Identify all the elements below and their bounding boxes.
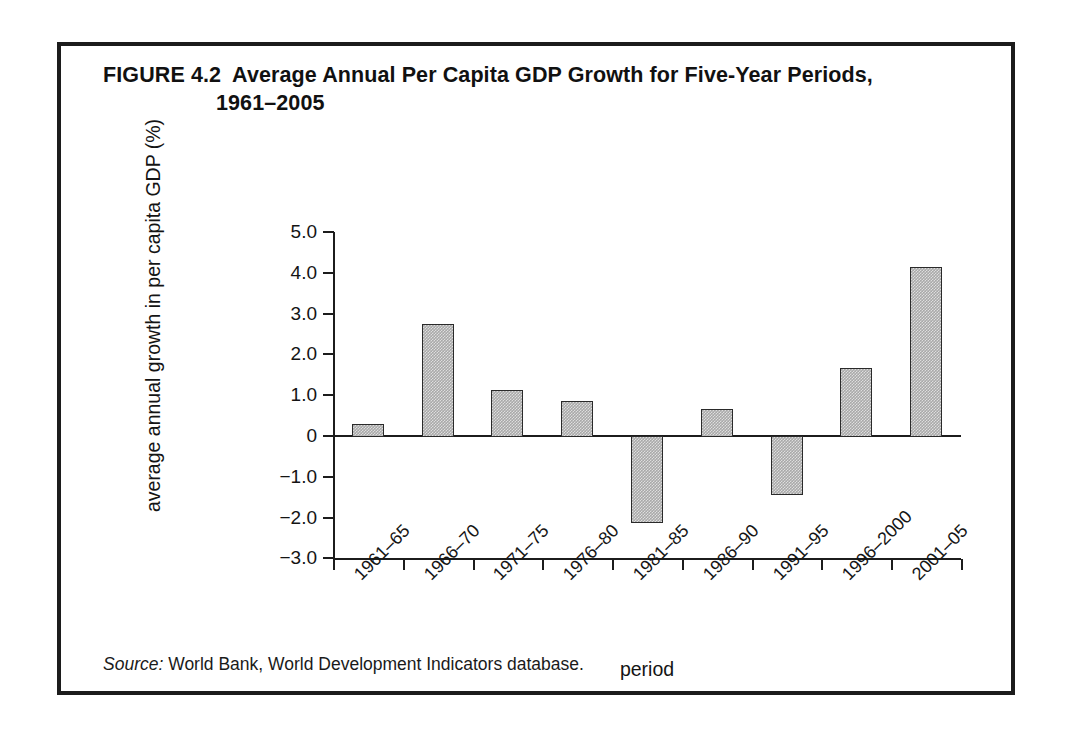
x-axis-tick-mark [612,559,614,570]
bar [422,324,454,437]
bar [561,401,593,437]
source-note: Source: World Bank, World Development In… [103,654,584,675]
y-axis-tick-label: 1.0 [255,385,317,404]
figure-title-line-2: 1961–2005 [216,90,933,118]
bar [910,267,942,437]
figure-title: FIGURE 4.2Average Annual Per Capita GDP … [103,62,933,117]
x-axis-category-label: 1961–65 [350,520,414,584]
bar [771,436,803,495]
y-axis-tick-label: −1.0 [255,467,317,486]
bar [840,368,872,437]
figure-title-line-1: Average Annual Per Capita GDP Growth for… [232,63,873,87]
y-axis-tick-label: −2.0 [255,508,317,527]
x-axis-category-label: 1981–85 [629,520,693,584]
x-axis-tick-mark [403,559,405,570]
y-axis-tick-label: 0 [255,426,317,445]
x-axis-category-label: 1976–80 [559,520,623,584]
x-axis-category-label: 1966–70 [420,520,484,584]
bar [352,424,384,437]
y-axis-tick-labels: 5.04.03.02.01.00−1.0−2.0−3.0 [245,46,317,691]
y-axis-tick-label: 4.0 [255,263,317,282]
x-axis-tick-mark [333,559,335,570]
x-axis-tick-mark [542,559,544,570]
x-axis-category-label: 1986–90 [699,520,763,584]
x-axis-tick-mark [473,559,475,570]
x-axis-tick-mark [961,559,963,570]
x-axis-category-label: 1996–2000 [838,506,917,585]
y-axis-tick-label: −3.0 [255,548,317,567]
x-axis-tick-mark [682,559,684,570]
bar [701,409,733,437]
figure-container: FIGURE 4.2Average Annual Per Capita GDP … [57,42,1015,695]
x-axis-tick-mark [891,559,893,570]
figure-number: FIGURE 4.2 [103,63,221,87]
y-axis-tick-label: 3.0 [255,304,317,323]
x-axis-tick-mark [752,559,754,570]
source-text: World Bank, World Development Indicators… [168,654,584,674]
y-axis-title: average annual growth in per capita GDP … [142,116,165,516]
y-axis-tick-label: 2.0 [255,344,317,363]
bar [631,436,663,523]
source-label: Source: [103,654,163,674]
y-axis-line [333,232,335,560]
bar [491,390,523,437]
y-axis-tick-label: 5.0 [255,222,317,241]
x-axis-tick-mark [821,559,823,570]
x-axis-category-label: 1991–95 [769,520,833,584]
x-axis-category-label: 2001–05 [908,520,972,584]
x-axis-category-label: 1971–75 [489,520,553,584]
